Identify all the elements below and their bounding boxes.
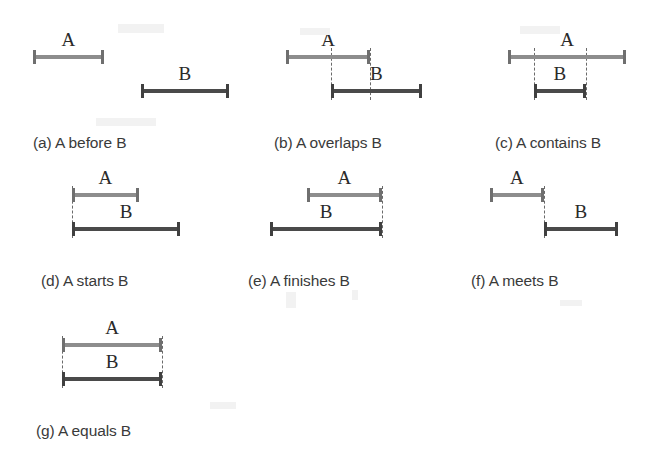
allen-interval-relations-figure: AB(a) A before BAB(b) A overlaps BAB(c) …	[0, 0, 664, 452]
interval-bar-a-a	[33, 54, 104, 60]
interval-label-a-b: A	[321, 30, 335, 49]
panel-caption-c: (c) A contains B	[495, 134, 601, 152]
endpoint-cap-end-a-f	[541, 188, 544, 202]
interval-diagram-c: AB	[508, 30, 626, 102]
endpoint-cap-start-b-a	[141, 84, 144, 98]
interval-bar-b-g	[62, 376, 162, 382]
interval-rule-a-a	[33, 55, 104, 59]
interval-diagram-a: AB	[33, 30, 229, 102]
interval-label-a-d: A	[99, 168, 113, 187]
interval-label-a-c: A	[560, 30, 574, 49]
endpoint-cap-start-a-c	[508, 50, 511, 64]
interval-diagram-e: AB	[270, 168, 382, 240]
interval-rule-b-e	[270, 227, 382, 231]
interval-rule-a-e	[307, 193, 382, 197]
panel-caption-d: (d) A starts B	[41, 272, 128, 290]
panel-caption-f: (f) A meets B	[471, 272, 558, 290]
endpoint-cap-end-a-c	[623, 50, 626, 64]
interval-bar-a-d	[72, 192, 139, 198]
interval-diagram-g: AB	[62, 318, 162, 390]
interval-rule-b-b	[331, 89, 422, 93]
interval-rule-a-c	[508, 55, 626, 59]
endpoint-cap-start-b-b	[331, 84, 334, 98]
endpoint-cap-start-a-f	[490, 188, 493, 202]
interval-label-b-e: B	[320, 202, 333, 221]
interval-diagram-f: AB	[490, 168, 618, 240]
interval-rule-b-c	[534, 89, 586, 93]
interval-rule-b-a	[141, 89, 229, 93]
panel-caption-e: (e) A finishes B	[248, 272, 350, 290]
endpoint-cap-start-a-e	[307, 188, 310, 202]
endpoint-cap-start-a-a	[33, 50, 36, 64]
endpoint-cap-start-a-b	[286, 50, 289, 64]
interval-bar-b-c	[534, 88, 586, 94]
interval-rule-a-f	[490, 193, 544, 197]
interval-bar-a-e	[307, 192, 382, 198]
interval-diagram-b: AB	[286, 30, 422, 102]
panel-g: AB(g) A equals B	[62, 318, 162, 390]
interval-label-b-a: B	[179, 64, 192, 83]
interval-label-b-d: B	[120, 202, 133, 221]
panel-caption-b: (b) A overlaps B	[274, 134, 382, 152]
scan-artifact-5	[352, 290, 358, 300]
endpoint-cap-end-b-f	[615, 222, 618, 236]
panel-f: AB(f) A meets B	[490, 168, 618, 240]
interval-label-a-f: A	[510, 168, 524, 187]
interval-bar-a-g	[62, 342, 162, 348]
scan-artifact-7	[210, 402, 236, 409]
interval-bar-b-b	[331, 88, 422, 94]
endpoint-cap-end-a-b	[367, 50, 370, 64]
interval-rule-a-g	[62, 343, 162, 347]
interval-label-b-c: B	[554, 64, 567, 83]
endpoint-cap-end-b-e	[379, 222, 382, 236]
interval-label-b-b: B	[370, 64, 383, 83]
scan-artifact-6	[560, 300, 582, 306]
interval-rule-b-d	[72, 227, 180, 231]
endpoint-cap-end-b-g	[159, 372, 162, 386]
endpoint-cap-end-a-g	[159, 338, 162, 352]
endpoint-cap-end-b-b	[419, 84, 422, 98]
interval-label-a-g: A	[105, 318, 119, 337]
interval-label-a-a: A	[61, 30, 75, 49]
endpoint-cap-start-b-d	[72, 222, 75, 236]
endpoint-cap-end-b-a	[226, 84, 229, 98]
interval-bar-b-a	[141, 88, 229, 94]
panel-caption-g: (g) A equals B	[36, 422, 131, 440]
interval-bar-b-d	[72, 226, 180, 232]
interval-bar-a-b	[286, 54, 370, 60]
interval-label-b-g: B	[106, 352, 119, 371]
panel-d: AB(d) A starts B	[72, 168, 180, 240]
interval-bar-a-f	[490, 192, 544, 198]
interval-rule-b-f	[544, 227, 618, 231]
interval-bar-b-f	[544, 226, 618, 232]
endpoint-cap-start-a-d	[72, 188, 75, 202]
panel-e: AB(e) A finishes B	[270, 168, 382, 240]
interval-bar-b-e	[270, 226, 382, 232]
interval-rule-b-g	[62, 377, 162, 381]
scan-artifact-4	[286, 292, 296, 308]
endpoint-cap-start-b-c	[534, 84, 537, 98]
panel-a: AB(a) A before B	[33, 30, 229, 102]
interval-bar-a-c	[508, 54, 626, 60]
endpoint-cap-end-b-c	[583, 84, 586, 98]
interval-diagram-d: AB	[72, 168, 180, 240]
endpoint-cap-start-b-e	[270, 222, 273, 236]
interval-label-a-e: A	[338, 168, 352, 187]
endpoint-cap-end-a-e	[379, 188, 382, 202]
panel-b: AB(b) A overlaps B	[286, 30, 422, 102]
endpoint-cap-end-b-d	[177, 222, 180, 236]
endpoint-cap-start-b-g	[62, 372, 65, 386]
interval-rule-a-d	[72, 193, 139, 197]
endpoint-cap-start-b-f	[544, 222, 547, 236]
interval-rule-a-b	[286, 55, 370, 59]
panel-c: AB(c) A contains B	[508, 30, 626, 102]
endpoint-cap-end-a-d	[136, 188, 139, 202]
panel-caption-a: (a) A before B	[33, 134, 126, 152]
endpoint-cap-end-a-a	[101, 50, 104, 64]
endpoint-cap-start-a-g	[62, 338, 65, 352]
alignment-guide-e-0	[382, 186, 383, 238]
scan-artifact-3	[96, 118, 156, 126]
interval-label-b-f: B	[575, 202, 588, 221]
alignment-guide-g-1	[162, 336, 163, 388]
